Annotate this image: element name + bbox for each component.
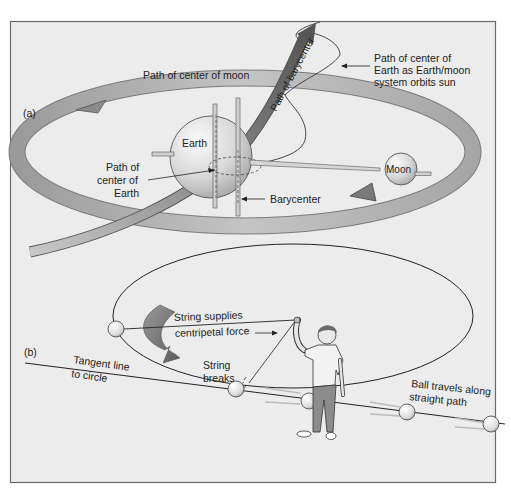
string-breaks-label-1: String (203, 359, 231, 371)
earth-left-rod (152, 152, 174, 156)
moon-label: Moon (386, 164, 411, 175)
barycenter-label: Barycenter (270, 193, 321, 205)
path-center-earth-label-3: Earth (114, 187, 139, 199)
string-supplies-label: String supplies (174, 309, 243, 323)
earth-sun-path-label-1: Path of center of (374, 52, 451, 64)
ball-3 (399, 404, 415, 420)
ball-4 (483, 416, 499, 432)
path-center-earth-label-2: center of (97, 174, 138, 186)
earth-sun-path-label-3: system orbits sun (374, 76, 456, 88)
diagram-canvas: (a) Path of center of moon Path of baryc… (0, 0, 511, 494)
earth-sun-path-label-2: Earth as Earth/moon (374, 64, 470, 76)
earth-axis-rod (213, 104, 217, 208)
ball-left (108, 321, 124, 337)
moon-rod (415, 172, 431, 176)
diagram-figure: (a) Path of center of moon Path of baryc… (0, 0, 511, 494)
panel-a-label: (a) (23, 107, 36, 119)
path-center-earth-label-1: Path of (106, 161, 139, 173)
panel-b-label: (b) (24, 346, 37, 358)
path-center-moon-label: Path of center of moon (143, 69, 249, 81)
string-breaks-label-2: breaks (203, 372, 235, 384)
earth-label: Earth (182, 137, 207, 149)
